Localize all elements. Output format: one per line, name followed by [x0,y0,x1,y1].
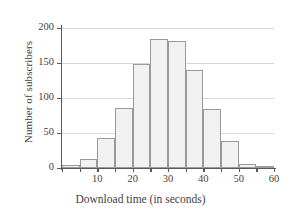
y-axis-tick-mark [57,98,62,99]
x-axis-tick-mark [168,168,169,172]
histogram-bar [97,138,115,168]
y-axis-tick-label: 50 [24,126,54,137]
x-axis-tick-mark [150,168,151,172]
histogram-bar [186,70,204,168]
x-axis-tick-label: 50 [227,173,251,184]
x-axis-tick-mark [186,168,187,172]
x-axis-tick-mark [62,168,63,172]
y-axis-tick-label: 150 [24,56,54,67]
y-axis-tick-label: 0 [24,161,54,172]
x-axis-tick-mark [239,168,240,172]
histogram-bar [221,141,239,168]
x-axis-tick-mark [133,168,134,172]
x-axis-tick-mark [256,168,257,172]
x-axis-tick-mark [221,168,222,172]
y-axis-tick-label: 200 [24,21,54,32]
histogram-figure: Number of subscribers 050100150200 10203… [0,0,281,218]
x-axis-tick-label: 40 [191,173,215,184]
x-axis-tick-mark [274,168,275,172]
y-axis-tick-mark [57,28,62,29]
histogram-bar [168,41,186,168]
x-axis-tick-label: 20 [121,173,145,184]
x-axis-tick-mark [80,168,81,172]
histogram-bar [133,64,151,168]
y-axis-tick-label: 100 [24,91,54,102]
x-axis-title: Download time (in seconds) [0,193,281,205]
x-axis-line [58,168,276,169]
x-axis-tick-label: 10 [85,173,109,184]
plot-area [62,28,274,168]
y-axis-tick-mark [57,63,62,64]
x-axis-tick-label: 30 [156,173,180,184]
x-axis-tick-mark [97,168,98,172]
histogram-bar [203,109,221,168]
x-axis-tick-mark [203,168,204,172]
y-axis-tick-labels: 050100150200 [22,0,54,218]
x-axis-tick-label: 60 [262,173,281,184]
histogram-bar [150,39,168,169]
y-axis-tick-mark [57,133,62,134]
x-axis-tick-mark [115,168,116,172]
histogram-bar [115,108,133,168]
gridline [62,28,274,29]
